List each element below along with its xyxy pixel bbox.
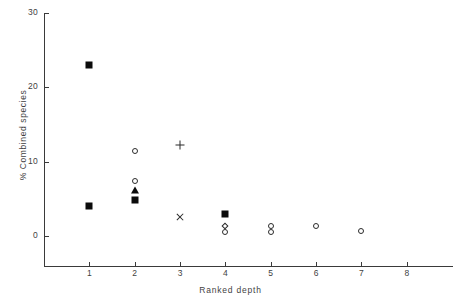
data-point-open-circle xyxy=(132,178,138,184)
data-point-open-circle xyxy=(132,148,138,154)
x-tick-label: 8 xyxy=(397,268,417,278)
data-point-filled-square xyxy=(131,197,138,204)
y-tick xyxy=(44,236,49,237)
x-axis-line xyxy=(44,266,453,267)
y-tick-label: 0 xyxy=(12,230,38,240)
data-point-open-circle xyxy=(222,229,228,235)
x-tick-label: 3 xyxy=(170,268,190,278)
x-tick-label: 4 xyxy=(215,268,235,278)
data-point-open-circle xyxy=(313,223,319,229)
x-axis-title: Ranked depth xyxy=(0,285,461,295)
x-tick xyxy=(361,262,362,267)
y-tick xyxy=(44,162,49,163)
data-point-filled-square xyxy=(86,203,93,210)
data-point-cross xyxy=(176,213,185,222)
data-point-open-circle xyxy=(358,228,364,234)
plot-area: 0102030 12345678 % Combined species Rank… xyxy=(0,0,461,307)
x-tick-label: 2 xyxy=(125,268,145,278)
y-tick xyxy=(44,13,49,14)
x-tick-label: 5 xyxy=(261,268,281,278)
y-axis-title: % Combined species xyxy=(18,65,28,205)
data-point-open-circle xyxy=(268,229,274,235)
data-point-open-circle xyxy=(268,223,274,229)
x-tick xyxy=(316,262,317,267)
x-tick xyxy=(271,262,272,267)
y-axis-line xyxy=(44,13,45,267)
x-tick-label: 7 xyxy=(351,268,371,278)
x-tick xyxy=(225,262,226,267)
x-tick xyxy=(135,262,136,267)
data-point-filled-triangle xyxy=(131,186,139,193)
y-tick-label: 30 xyxy=(12,7,38,17)
x-tick xyxy=(180,262,181,267)
data-point-filled-square xyxy=(86,62,93,69)
x-tick-label: 6 xyxy=(306,268,326,278)
x-tick-label: 1 xyxy=(79,268,99,278)
x-tick xyxy=(407,262,408,267)
x-tick xyxy=(89,262,90,267)
data-point-filled-square xyxy=(222,210,229,217)
figure-scatter-plot: 0102030 12345678 % Combined species Rank… xyxy=(0,0,461,307)
y-tick xyxy=(44,87,49,88)
data-point-plus xyxy=(176,140,185,149)
